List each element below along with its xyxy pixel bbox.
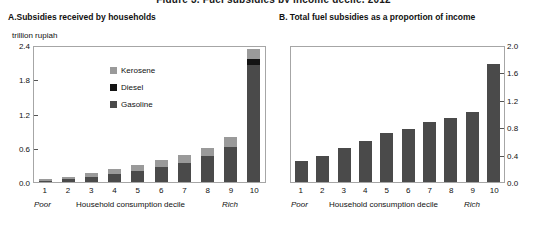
y-tick-mark <box>500 73 504 74</box>
diesel-swatch-icon <box>110 84 117 91</box>
bar-segment-kerosene <box>178 155 191 162</box>
bar-fill <box>402 129 415 182</box>
bar-segment-kerosene <box>155 160 168 167</box>
bar-stack[interactable] <box>155 47 168 182</box>
bar[interactable] <box>316 47 329 182</box>
bar-fill <box>359 141 372 182</box>
panel-b-x-caption: Household consumption decile <box>329 200 438 209</box>
bar-segment-gasoline <box>224 147 237 182</box>
gasoline-swatch-icon <box>110 101 117 108</box>
bar-segment-gasoline <box>131 171 144 182</box>
legend-label-kerosene: Kerosene <box>121 66 155 75</box>
y-tick-mark <box>34 80 38 81</box>
x-tick-label: 7 <box>423 186 436 195</box>
bar-stack[interactable] <box>39 47 52 182</box>
y-tick-label: 0.0 <box>19 179 30 188</box>
panel-b-bars <box>291 47 504 182</box>
bar-fill <box>316 156 329 182</box>
panel-b-plot-area <box>290 46 505 183</box>
panel-b-rich-label: Rich <box>464 200 480 209</box>
bar-segment-gasoline <box>108 174 121 182</box>
y-tick-label: 0.8 <box>507 124 518 133</box>
bar-segment-gasoline <box>178 163 191 182</box>
y-tick-mark <box>500 101 504 102</box>
bar-stack[interactable] <box>201 47 214 182</box>
y-tick-label: 0.4 <box>507 151 518 160</box>
bar[interactable] <box>423 47 436 182</box>
bar-stack[interactable] <box>85 47 98 182</box>
x-tick-label: 8 <box>445 186 458 195</box>
bar-fill <box>338 148 351 182</box>
bar[interactable] <box>359 47 372 182</box>
panel-a-rich-label: Rich <box>222 200 238 209</box>
x-tick-label: 1 <box>294 186 307 195</box>
bar-segment-gasoline <box>155 167 168 182</box>
bar[interactable] <box>466 47 479 182</box>
legend-item-gasoline[interactable]: Gasoline <box>110 96 155 113</box>
bar-segment-gasoline <box>39 181 52 182</box>
bar-segment-gasoline <box>247 65 260 182</box>
x-tick-label: 8 <box>201 186 214 195</box>
panel-a-legend: Kerosene Diesel Gasoline <box>110 62 155 113</box>
legend-item-kerosene[interactable]: Kerosene <box>110 62 155 79</box>
bar-stack[interactable] <box>224 47 237 182</box>
x-tick-label: 2 <box>61 186 74 195</box>
bar-segment-kerosene <box>224 137 237 146</box>
panel-a-x-caption: Household consumption decile <box>76 200 185 209</box>
y-tick-label: 1.8 <box>19 76 30 85</box>
y-tick-mark <box>500 128 504 129</box>
bar-fill <box>380 133 393 182</box>
x-tick-label: 9 <box>225 186 238 195</box>
legend-label-diesel: Diesel <box>121 83 143 92</box>
panel-a-y-axis-labels: 0.00.61.21.82.4 <box>0 0 30 232</box>
y-tick-label: 1.2 <box>19 110 30 119</box>
x-tick-label: 5 <box>131 186 144 195</box>
bar-segment-gasoline <box>85 177 98 182</box>
y-tick-mark <box>500 156 504 157</box>
bar-stack[interactable] <box>62 47 75 182</box>
bar[interactable] <box>380 47 393 182</box>
bar[interactable] <box>444 47 457 182</box>
x-tick-label: 6 <box>155 186 168 195</box>
x-tick-label: 4 <box>359 186 372 195</box>
panel-b-poor-label: Poor <box>291 200 308 209</box>
y-tick-mark <box>34 115 38 116</box>
bar-fill <box>487 64 500 182</box>
y-tick-label: 2.4 <box>19 42 30 51</box>
bar-stack[interactable] <box>247 47 260 182</box>
panel-b-title: B. Total fuel subsidies as a proportion … <box>279 12 475 22</box>
bar[interactable] <box>338 47 351 182</box>
y-tick-label: 0.6 <box>19 144 30 153</box>
bar-fill <box>466 112 479 182</box>
kerosene-swatch-icon <box>110 67 117 74</box>
y-tick-label: 1.2 <box>507 96 518 105</box>
bar-segment-gasoline <box>62 179 75 182</box>
bar-segment-gasoline <box>201 156 214 182</box>
x-tick-label: 10 <box>488 186 501 195</box>
x-tick-label: 7 <box>178 186 191 195</box>
x-tick-label: 3 <box>85 186 98 195</box>
x-tick-label: 3 <box>337 186 350 195</box>
bar-segment-kerosene <box>247 49 260 59</box>
x-tick-label: 5 <box>380 186 393 195</box>
x-tick-label: 9 <box>466 186 479 195</box>
bar-segment-kerosene <box>201 148 214 156</box>
panel-a: A.Subsidies received by households trill… <box>0 0 274 232</box>
bar[interactable] <box>402 47 415 182</box>
bar-stack[interactable] <box>178 47 191 182</box>
bar-fill <box>423 122 436 182</box>
legend-item-diesel[interactable]: Diesel <box>110 79 155 96</box>
y-tick-label: 2.0 <box>507 42 518 51</box>
x-tick-label: 6 <box>402 186 415 195</box>
x-tick-label: 2 <box>316 186 329 195</box>
bar[interactable] <box>295 47 308 182</box>
x-tick-label: 4 <box>108 186 121 195</box>
bar-fill <box>444 118 457 182</box>
panel-b-y-axis-labels: 0.00.40.81.21.62.0 <box>507 0 537 232</box>
x-tick-label: 10 <box>248 186 261 195</box>
panel-a-x-axis-labels: 12345678910 <box>33 186 266 195</box>
bar[interactable] <box>487 47 500 182</box>
panel-a-poor-label: Poor <box>34 200 51 209</box>
bar-fill <box>295 161 308 182</box>
x-tick-label: 1 <box>38 186 51 195</box>
